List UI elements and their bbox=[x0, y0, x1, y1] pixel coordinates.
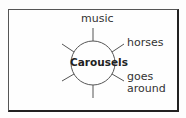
spoke-label-horses: horses bbox=[127, 37, 163, 49]
spoke-label-around: around bbox=[127, 83, 166, 95]
spoke-label-music: music bbox=[81, 13, 114, 25]
center-label: Carousels bbox=[70, 56, 128, 68]
